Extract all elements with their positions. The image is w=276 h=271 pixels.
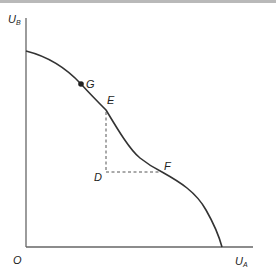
x-axis-label: UA <box>235 255 248 268</box>
point-e-label: E <box>107 94 115 106</box>
point-g-label: G <box>86 78 95 90</box>
point-g-marker <box>78 81 84 87</box>
origin-label: O <box>13 254 22 266</box>
frontier-curve <box>26 51 222 247</box>
point-d-label: D <box>94 171 102 183</box>
utility-frontier-diagram: UB UA O G E D F <box>0 0 276 271</box>
point-f-label: F <box>164 160 172 172</box>
y-axis-label: UB <box>8 13 21 26</box>
